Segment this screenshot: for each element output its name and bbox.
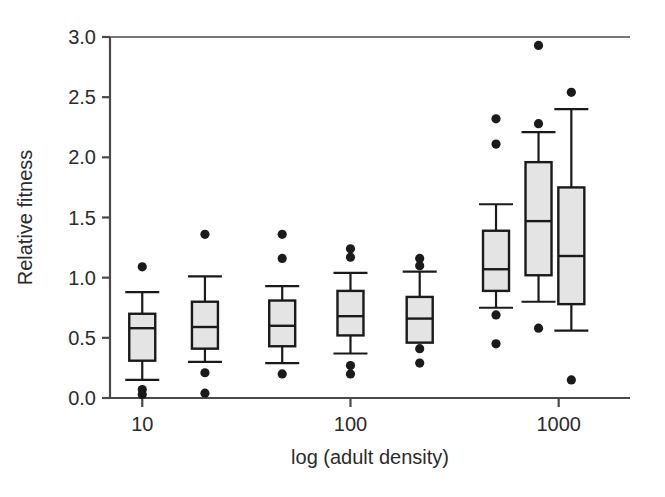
y-tick-label: 1.5 [68,207,96,229]
outlier-point [491,310,500,319]
outlier-point [491,139,500,148]
outlier-point [200,389,209,398]
outlier-point [567,375,576,384]
outlier-point [415,359,424,368]
outlier-point [200,368,209,377]
outlier-point [415,344,424,353]
outlier-point [138,262,147,271]
y-tick-label: 2.5 [68,86,96,108]
outlier-point [346,361,355,370]
outlier-point [346,369,355,378]
box-5 [403,254,437,368]
box-rect [269,301,295,347]
outlier-point [534,324,543,333]
box-rect [337,291,363,336]
outlier-point [415,261,424,270]
y-tick-label: 0.0 [68,387,96,409]
outlier-point [138,390,147,399]
boxplot-svg: 0.00.51.01.52.02.53.0101001000log (adult… [0,0,665,497]
outlier-point [346,244,355,253]
x-tick-label: 1000 [536,413,581,435]
boxplot-figure: 0.00.51.01.52.02.53.0101001000log (adult… [0,0,665,497]
box-4 [333,244,367,378]
outlier-point [278,230,287,239]
box-8 [554,88,588,385]
box-6 [479,114,513,348]
y-tick-label: 0.5 [68,327,96,349]
box-1 [125,262,159,399]
outlier-point [346,253,355,262]
outlier-point [278,369,287,378]
outlier-point [534,41,543,50]
y-tick-label: 1.0 [68,267,96,289]
x-tick-label: 10 [131,413,153,435]
outlier-point [491,339,500,348]
box-rect [407,297,433,343]
box-rect [558,187,584,304]
outlier-point [200,230,209,239]
x-axis-title: log (adult density) [291,446,449,468]
y-tick-label: 2.0 [68,146,96,168]
outlier-point [567,88,576,97]
box-rect [526,162,552,275]
outlier-point [491,114,500,123]
outlier-point [534,119,543,128]
outlier-point [278,254,287,263]
y-axis-title: Relative fitness [14,150,36,286]
y-tick-label: 3.0 [68,26,96,48]
box-7 [522,41,556,333]
box-rect [129,314,155,361]
x-tick-label: 100 [334,413,367,435]
box-3 [265,230,299,379]
box-rect [192,302,218,349]
box-2 [188,230,222,398]
box-series [125,41,588,399]
box-rect [483,231,509,291]
